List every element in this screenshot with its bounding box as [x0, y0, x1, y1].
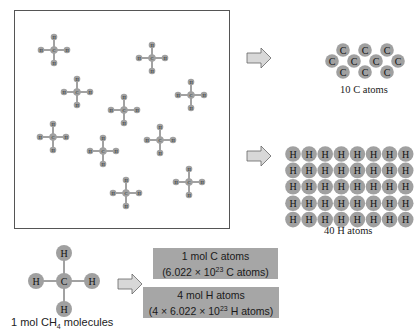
hydrogen-atom: H [87, 148, 94, 155]
hydrogen-atom: H [149, 42, 156, 49]
hydrogen-atom: H [350, 195, 366, 211]
hydrogen-atom-letter: H [305, 198, 312, 209]
hydrogen-atom-letter: H [289, 181, 296, 192]
hydrogen-atom: H [136, 55, 143, 62]
carbon-atom: C [49, 133, 57, 141]
carbon-atom-letter: C [61, 276, 68, 287]
hydrogen-atom-letter: H [305, 165, 312, 176]
hydrogen-atom-letter: H [305, 181, 312, 192]
hydrogen-atom: H [285, 146, 301, 162]
hydrogen-atom-letter: H [402, 214, 409, 225]
hydrogen-atom-letter: H [322, 149, 329, 160]
methane-molecule: HHHHC [173, 166, 206, 199]
carbon-atom: C [380, 43, 394, 57]
hydrogen-atom: H [100, 161, 107, 168]
hydrogen-atom-letter: H [338, 149, 345, 160]
hydrogen-atom: H [144, 137, 151, 144]
hydrogen-atom: H [201, 92, 208, 99]
carbon-atom-letter: C [75, 90, 78, 95]
methane-molecule: HHHHC [175, 79, 208, 112]
hydrogen-atom-letter: H [88, 276, 95, 287]
carbon-atom: C [325, 54, 339, 68]
hydrogen-atom: H [188, 79, 195, 86]
hydrogen-atom-letter: H [32, 276, 39, 287]
hydrogen-atom: H [285, 195, 301, 211]
hydrogen-atom: H [74, 76, 81, 83]
hydrogen-atom: H [123, 203, 130, 210]
methane-molecule: HHHHC [144, 124, 177, 157]
carbon-atom: C [148, 54, 156, 62]
carbon-atom-letter: C [189, 93, 192, 98]
hydrogen-atom: H [157, 124, 164, 131]
hydrogen-atom: H [285, 212, 301, 228]
carbon-atom: C [120, 106, 128, 114]
hydrogen-line2-suffix: H atoms) [228, 305, 274, 317]
hydrogen-atom: H [110, 190, 117, 197]
carbon-atom: C [156, 136, 164, 144]
hydrogen-line2-exponent: 23 [220, 305, 228, 312]
carbon-atom: C [99, 147, 107, 155]
arrow-to-moles [118, 274, 142, 294]
carbon-atom: C [336, 43, 350, 57]
hydrogen-moles-box: 4 mol H atoms (4 × 6.022 × 1023 H atoms) [143, 287, 279, 318]
hydrogen-atom-letter: H [354, 181, 361, 192]
carbon-atom-letter: C [340, 67, 347, 78]
methane-molecule: HHHHC [37, 121, 70, 154]
methane-molecule: HHHHC [108, 94, 141, 127]
hydrogen-atom: H [50, 121, 57, 128]
hydrogen-atom: H [136, 190, 143, 197]
arrow-to-carbon-shape [247, 48, 271, 68]
hydrogen-atom-letter: H [354, 149, 361, 160]
hydrogen-atom: H [173, 179, 180, 186]
methane-molecule: HHHHC [136, 42, 169, 75]
hydrogen-atom-letter: H [402, 149, 409, 160]
hydrogen-atom: H [398, 163, 414, 179]
methane-molecule: HHHHC [61, 76, 94, 109]
hydrogen-atom-letter: H [402, 181, 409, 192]
hydrogen-atom: H [175, 92, 182, 99]
carbon-atom-letter: C [373, 56, 380, 67]
hydrogen-atom: H [301, 179, 317, 195]
hydrogen-atom: H [398, 146, 414, 162]
hydrogen-atom: H [121, 94, 128, 101]
hydrogen-atom: H [74, 102, 81, 109]
hydrogen-atom: H [334, 179, 350, 195]
carbon-atom-letter: C [340, 45, 347, 56]
hydrogen-atom: H [51, 34, 58, 41]
hydrogen-atom: H [398, 195, 414, 211]
hydrogen-atom: H [108, 107, 115, 114]
hydrogen-atom-letter: H [370, 165, 377, 176]
hydrogen-atom: H [382, 179, 398, 195]
carbon-atom-letter: C [351, 56, 358, 67]
carbon-moles-line1: 1 mol C atoms [153, 250, 278, 263]
carbon-atom: C [187, 91, 195, 99]
hydrogen-atom: H [149, 68, 156, 75]
hydrogen-atom: H [87, 89, 94, 96]
carbon-atom-letter: C [187, 180, 190, 185]
hydrogen-atom: H [37, 134, 44, 141]
hydrogen-atom-letter: H [338, 165, 345, 176]
hydrogen-atom: H [382, 195, 398, 211]
hydrogen-atom: H [334, 146, 350, 162]
hydrogen-atom-letter: H [338, 181, 345, 192]
hydrogen-atom: H [317, 163, 333, 179]
hydrogen-atom-letter: H [354, 198, 361, 209]
methane-molecule: HHHHC [87, 135, 120, 168]
carbon-atom-letter: C [122, 108, 125, 113]
methane-molecule: HHHHC [38, 34, 71, 67]
hydrogen-atom-letter: H [289, 149, 296, 160]
hydrogen-atom: H [56, 245, 72, 261]
carbon-atom: C [358, 65, 372, 79]
hydrogen-atom-letter: H [354, 214, 361, 225]
carbon-line2-prefix: (6.022 × 10 [162, 266, 215, 278]
hydrogen-atom: H [301, 212, 317, 228]
hydrogen-atom: H [301, 146, 317, 162]
hydrogen-moles-line1: 4 mol H atoms [143, 289, 279, 302]
methane-molecule: HHHHC [110, 177, 143, 210]
hydrogen-atom: H [84, 273, 100, 289]
hydrogen-atom: H [63, 134, 70, 141]
carbon-atom-letter: C [124, 191, 127, 196]
hydrogen-atom-letter: H [370, 198, 377, 209]
hydrogen-atom-letter: H [338, 214, 345, 225]
mole-methane-label: 1 mol CH4 molecules [11, 316, 113, 330]
